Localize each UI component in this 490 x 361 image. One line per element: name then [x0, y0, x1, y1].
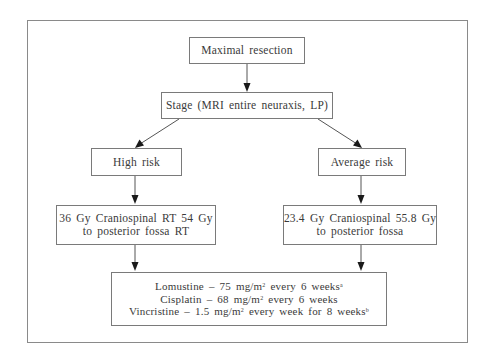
node-label: Average risk	[331, 156, 394, 169]
dash: –	[209, 280, 215, 292]
footnote-marker: a	[340, 282, 343, 288]
node-label: Stage (MRI entire neuraxis, LP)	[166, 99, 328, 112]
node-line: 23.4 Gy Craniospinal 55.8 Gy	[284, 212, 436, 225]
schedule: every 6 weeks	[271, 280, 341, 292]
schedule: every 6 weeks	[268, 293, 338, 305]
node-label: Maximal resection	[201, 44, 292, 57]
dose: 1.5 mg/m	[195, 305, 241, 317]
dose-exponent: 2	[241, 307, 244, 313]
dose-exponent: 2	[260, 295, 263, 301]
schedule: every week for 8 weeks	[249, 305, 366, 317]
node-high-risk-dose: 36 Gy Craniospinal RT 54 Gy to posterior…	[56, 205, 216, 245]
node-maximal-resection: Maximal resection	[189, 37, 305, 64]
dose-exponent: 2	[262, 282, 265, 288]
dose: 75 mg/m	[220, 280, 263, 292]
chemo-line-lomustine: Lomustine – 75 mg/m2 every 6 weeksa	[129, 280, 369, 293]
node-high-risk: High risk	[91, 148, 182, 176]
dose: 68 mg/m	[217, 293, 260, 305]
dash: –	[207, 293, 213, 305]
chemo-line-cisplatin: Cisplatin – 68 mg/m2 every 6 weeks	[129, 293, 369, 306]
node-line: 36 Gy Craniospinal RT 54 Gy	[59, 212, 212, 225]
node-stage: Stage (MRI entire neuraxis, LP)	[161, 92, 333, 119]
node-average-risk-dose: 23.4 Gy Craniospinal 55.8 Gy to posterio…	[283, 205, 437, 245]
node-chemotherapy: Lomustine – 75 mg/m2 every 6 weeksa Cisp…	[111, 272, 387, 326]
footnote-marker: b	[366, 307, 369, 313]
dash: –	[184, 305, 190, 317]
drug-name: Lomustine	[155, 280, 204, 292]
drug-name: Vincristine	[129, 305, 179, 317]
node-line: to posterior fossa RT	[59, 225, 212, 238]
node-line: to posterior fossa	[284, 225, 436, 238]
node-label: High risk	[113, 156, 160, 169]
chemo-line-vincristine: Vincristine – 1.5 mg/m2 every week for 8…	[129, 305, 369, 318]
node-average-risk: Average risk	[318, 148, 406, 176]
drug-name: Cisplatin	[160, 293, 202, 305]
